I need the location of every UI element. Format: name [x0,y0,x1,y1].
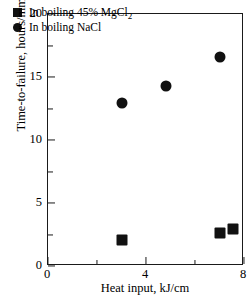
legend-label-mgcl2: In boiling 45% MgCl2 [29,6,132,19]
data-point-marker [116,234,127,245]
x-axis-tick-label: 4 [142,267,148,281]
x-axis-tick [47,257,48,264]
y-axis-minor-tick [48,234,53,235]
plot-area [47,13,243,265]
chart-figure: In boiling 45% MgCl2 In boiling NaCl Hea… [0,0,251,300]
x-axis-minor-tick [96,260,97,265]
y-axis-title: Time-to-failure, hours/mm2 [14,0,29,148]
y-axis-tick-label: 5 [36,195,42,209]
y-axis-minor-tick [48,171,53,172]
y-axis-tick-label: 0 [36,258,42,272]
y-axis-tick [48,139,55,140]
legend-item-nacl: In boiling NaCl [13,20,132,35]
y-axis-minor-tick [48,108,53,109]
x-axis-tick-label: 0 [44,267,50,281]
x-axis-tick [145,257,146,264]
y-axis-minor-tick [48,45,53,46]
x-axis-tick-label: 8 [240,267,246,281]
data-point-marker [227,224,238,235]
legend-label-nacl: In boiling NaCl [29,21,101,34]
y-axis-tick-label: 10 [30,132,43,146]
data-point-marker [116,98,127,109]
data-point-marker [214,228,225,239]
x-axis-title: Heat input, kJ/cm [47,281,243,296]
y-axis-tick-label: 15 [30,69,43,83]
data-point-marker [160,80,171,91]
x-axis-tick [243,257,244,264]
y-axis-tick [48,202,55,203]
data-point-marker [214,51,225,62]
y-axis-tick [48,76,55,77]
x-axis-minor-tick [194,260,195,265]
y-axis-tick-label: 20 [30,6,43,20]
